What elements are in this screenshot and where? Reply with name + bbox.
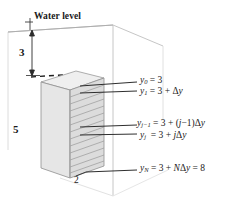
depth-dimension-label: 3 (19, 47, 25, 58)
column-height-label: 5 (13, 124, 19, 135)
figure-container: Water level 3 5 2 y0 = 3 y1 = 3 + Δy yj−… (0, 0, 242, 206)
column-front-face (41, 82, 70, 178)
water-level-line (8, 25, 113, 32)
water-level-label: Water level (34, 12, 81, 22)
depth-dimension-arrow (26, 30, 40, 76)
node-label-yN: yN = 3 + NΔy = 8 (140, 164, 205, 174)
leader-line-yN (86, 170, 137, 172)
node-label-yj: yj = 3 + jΔy (140, 131, 186, 141)
node-label-yjm1: yj−1 = 3 + (j−1)Δy (137, 119, 205, 129)
column-base-label: 2 (74, 176, 79, 186)
tank-top-right-edge (113, 25, 163, 46)
tank-floor-right-diagonal (113, 170, 168, 196)
tank-floor-diagonal (60, 178, 113, 196)
node-label-y1: y1 = 3 + Δy (140, 87, 183, 97)
diagram-svg (0, 0, 242, 206)
node-label-y0: y0 = 3 (140, 76, 162, 86)
